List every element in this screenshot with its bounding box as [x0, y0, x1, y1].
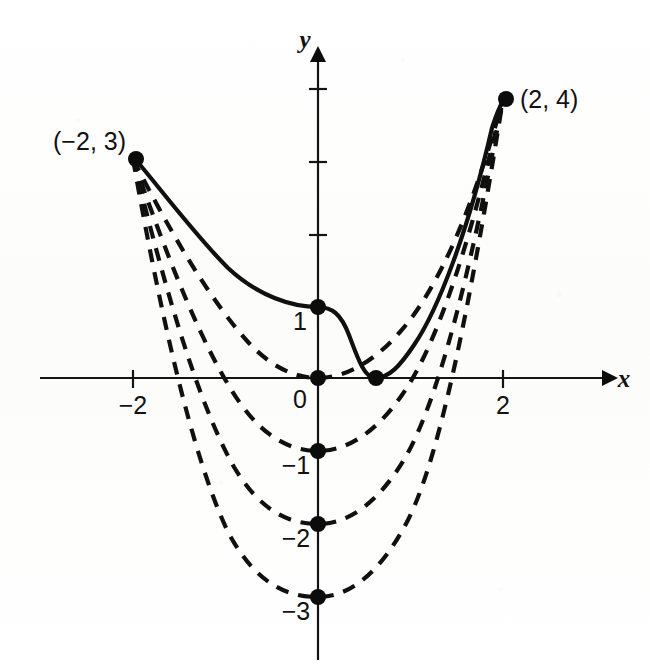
y-tick-label--1: −1	[282, 451, 311, 479]
point-2-4	[498, 91, 514, 107]
y-tick-label--2: −2	[282, 524, 311, 552]
labels-group: y x −2 2 0 1 −1 −2 −3 (−2, 3) (2, 4)	[53, 26, 630, 625]
point-0-1	[310, 299, 326, 315]
point-0-minus3	[310, 589, 326, 605]
y-axis-arrowhead	[310, 46, 326, 62]
y-axis-label: y	[296, 26, 311, 53]
point-minus2-3	[128, 151, 144, 167]
annotation-point-left: (−2, 3)	[53, 127, 126, 155]
x-tick-label-2: 2	[496, 391, 510, 419]
x-axis-label: x	[617, 365, 631, 392]
point-solid-x-intercept	[368, 370, 384, 386]
origin-label: 0	[293, 385, 307, 413]
x-tick-label--2: −2	[119, 391, 148, 419]
annotation-point-right: (2, 4)	[520, 85, 578, 113]
point-0-minus2	[310, 516, 326, 532]
figure-root: y x −2 2 0 1 −1 −2 −3 (−2, 3) (2, 4)	[0, 0, 650, 670]
x-axis-arrowhead	[602, 370, 618, 386]
coordinate-plot: y x −2 2 0 1 −1 −2 −3 (−2, 3) (2, 4)	[0, 0, 650, 670]
point-0-minus1	[310, 443, 326, 459]
y-tick-label-1: 1	[293, 307, 307, 335]
point-0-0-origin	[310, 370, 326, 386]
y-tick-label--3: −3	[282, 597, 311, 625]
axes-group	[40, 46, 618, 660]
